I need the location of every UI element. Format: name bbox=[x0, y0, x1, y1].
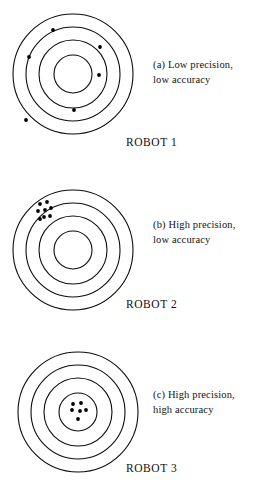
panel-caption-line2: high accuracy bbox=[153, 402, 264, 417]
shot-mark bbox=[43, 208, 47, 212]
target-ring-bullseye bbox=[54, 231, 92, 269]
panel-caption-line2: low accuracy bbox=[153, 72, 264, 87]
robot-label-b: ROBOT 2 bbox=[126, 298, 177, 310]
target-panel-a: (a) Low precision, low accuracy ROBOT 1 bbox=[0, 0, 264, 165]
shot-mark bbox=[24, 118, 28, 122]
target-ring-second bbox=[31, 365, 125, 459]
shot-mark bbox=[71, 402, 75, 406]
shot-mark bbox=[98, 45, 102, 49]
target-ring-bullseye bbox=[54, 55, 92, 93]
target-ring-outer bbox=[13, 14, 133, 134]
target-panel-c: (c) High precision, high accuracy ROBOT … bbox=[0, 325, 264, 493]
target-diagram-c bbox=[5, 325, 150, 475]
target-panel-b: (b) High precision, low accuracy ROBOT 2 bbox=[0, 160, 264, 325]
target-ring-bullseye bbox=[59, 393, 97, 431]
shot-mark bbox=[79, 401, 83, 405]
shot-mark bbox=[72, 108, 76, 112]
panel-caption-line2: low accuracy bbox=[153, 232, 264, 247]
panel-caption-line1: (c) High precision, bbox=[153, 389, 235, 400]
shot-mark bbox=[49, 206, 53, 210]
robot-label-a: ROBOT 1 bbox=[126, 136, 177, 148]
shot-mark bbox=[70, 408, 74, 412]
shot-mark bbox=[97, 73, 101, 77]
target-diagram-a bbox=[5, 0, 150, 150]
target-ring-outer bbox=[18, 352, 138, 472]
panel-caption-line1: (b) High precision, bbox=[153, 219, 235, 230]
target-ring-third bbox=[44, 378, 112, 446]
shot-mark bbox=[38, 202, 42, 206]
shot-mark bbox=[76, 417, 80, 421]
target-ring-second bbox=[26, 27, 120, 121]
target-ring-second bbox=[26, 203, 120, 297]
shot-mark bbox=[51, 28, 55, 32]
shot-mark bbox=[48, 214, 52, 218]
target-ring-third bbox=[39, 216, 107, 284]
shot-mark bbox=[78, 409, 82, 413]
panel-caption-line1: (a) Low precision, bbox=[153, 59, 233, 70]
target-diagram-b bbox=[5, 160, 150, 310]
target-ring-third bbox=[39, 40, 107, 108]
shot-mark bbox=[84, 408, 88, 412]
panel-caption-b: (b) High precision, low accuracy bbox=[153, 217, 264, 247]
shot-mark bbox=[38, 217, 42, 221]
panel-caption-a: (a) Low precision, low accuracy bbox=[153, 57, 264, 87]
precision-accuracy-figure: (a) Low precision, low accuracy ROBOT 1 … bbox=[0, 0, 264, 493]
shot-mark bbox=[45, 200, 49, 204]
target-ring-outer bbox=[13, 190, 133, 310]
panel-caption-c: (c) High precision, high accuracy bbox=[153, 387, 264, 417]
shot-mark bbox=[27, 55, 31, 59]
shot-mark bbox=[36, 209, 40, 213]
shot-mark bbox=[42, 215, 46, 219]
robot-label-c: ROBOT 3 bbox=[126, 462, 177, 474]
